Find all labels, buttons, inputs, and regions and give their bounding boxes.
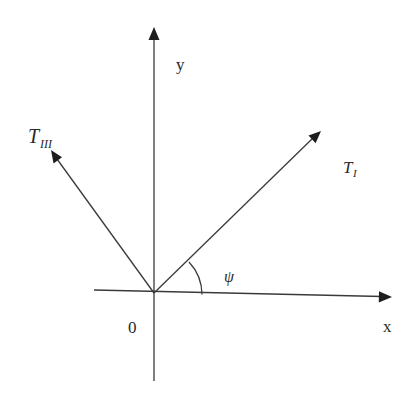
vector-t1-label: T I [343,158,358,179]
angle-psi-label: ψ [224,268,235,286]
origin-label: 0 [128,318,137,337]
vector-diagram: y x 0 ψ T III T I [0,0,411,397]
angle-psi-arc [189,262,202,295]
vector-t3 [51,150,154,293]
vector-t1 [154,131,321,293]
y-axis [149,27,160,381]
vector-t3-arrowhead-icon [51,150,62,164]
y-axis-label: y [176,55,185,74]
x-axis [94,290,392,302]
x-axis-arrowhead-icon [379,291,392,302]
vector-t1-label-sub: I [352,167,358,179]
vector-t3-label: T III [28,125,53,151]
x-axis-label: x [383,317,392,336]
vector-t3-label-sub: III [39,137,53,151]
y-axis-arrowhead-icon [149,27,160,40]
